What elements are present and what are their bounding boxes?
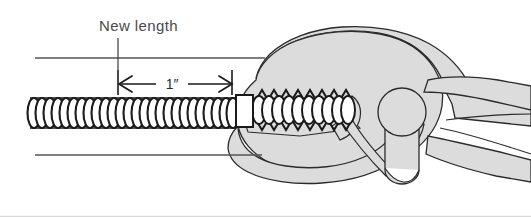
stretched-spring-loops [252, 96, 355, 124]
white-spacer-block [236, 95, 253, 127]
coil-loops [28, 98, 240, 128]
compressed-coil-spring [28, 98, 240, 128]
dimension-label: 1″ [166, 76, 179, 92]
new-length-label: New length [99, 17, 178, 34]
pliers-pivot-circle [378, 88, 426, 136]
illustration-canvas: 1″ New length [0, 0, 531, 217]
technical-illustration-figure: 1″ New length [0, 0, 531, 217]
